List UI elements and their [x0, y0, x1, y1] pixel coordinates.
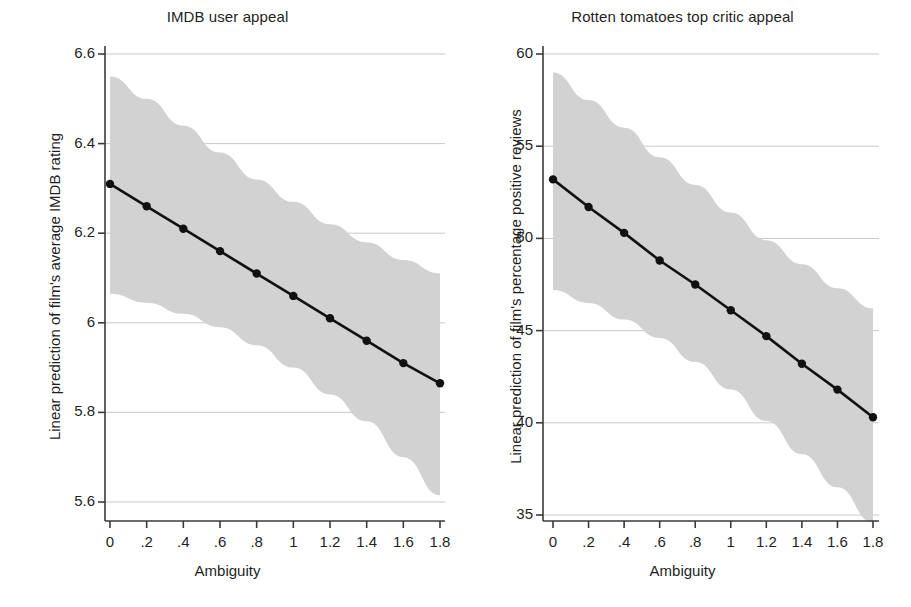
data-point-marker — [362, 337, 370, 345]
data-point-marker — [436, 379, 444, 387]
data-point-marker — [252, 269, 260, 277]
data-point-marker — [549, 175, 557, 183]
data-point-marker — [399, 359, 407, 367]
plot-area-left — [0, 0, 455, 607]
x-tick-label: 1.8 — [851, 533, 895, 550]
data-point-marker — [326, 314, 334, 322]
chart-panel-rottentomatoes: Rotten tomatoes top critic appeal Linear… — [455, 0, 910, 607]
y-tick-label: 6.4 — [35, 134, 95, 151]
data-point-marker — [762, 332, 770, 340]
y-tick-label: 5.8 — [35, 402, 95, 419]
y-tick-label: 6 — [35, 313, 95, 330]
y-tick-label: 55 — [473, 136, 533, 153]
data-point-marker — [584, 203, 592, 211]
data-point-marker — [655, 256, 663, 264]
y-tick-label: 50 — [473, 228, 533, 245]
data-point-marker — [833, 385, 841, 393]
data-point-marker — [216, 247, 224, 255]
y-tick-label: 35 — [473, 505, 533, 522]
data-point-marker — [727, 306, 735, 314]
y-tick-label: 5.6 — [35, 492, 95, 509]
figure-canvas: IMDB user appeal Linear prediction of fi… — [0, 0, 911, 607]
y-tick-label: 40 — [473, 413, 533, 430]
chart-panel-imdb: IMDB user appeal Linear prediction of fi… — [0, 0, 455, 607]
y-tick-label: 6.2 — [35, 223, 95, 240]
data-point-marker — [179, 225, 187, 233]
y-tick-label: 45 — [473, 321, 533, 338]
y-tick-label: 6.6 — [35, 44, 95, 61]
data-point-marker — [798, 360, 806, 368]
data-point-marker — [869, 413, 877, 421]
data-point-marker — [106, 180, 114, 188]
y-tick-label: 60 — [473, 44, 533, 61]
data-point-marker — [691, 280, 699, 288]
data-point-marker — [289, 292, 297, 300]
data-point-marker — [142, 202, 150, 210]
data-point-marker — [620, 229, 628, 237]
